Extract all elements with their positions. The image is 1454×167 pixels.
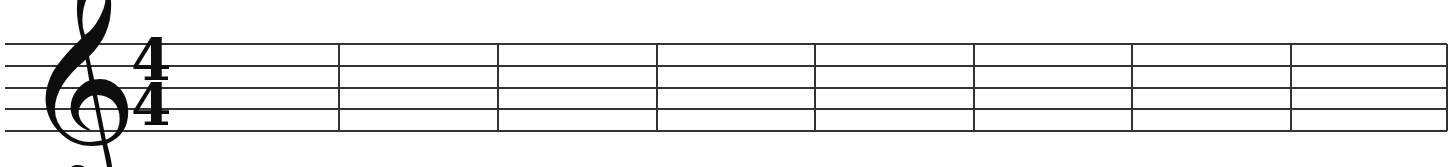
sheet-music-canvas: 𝄞 4 4 bbox=[0, 0, 1454, 167]
staff-system: 𝄞 4 4 bbox=[0, 0, 1454, 167]
staff-lines-and-barlines bbox=[0, 0, 1454, 167]
